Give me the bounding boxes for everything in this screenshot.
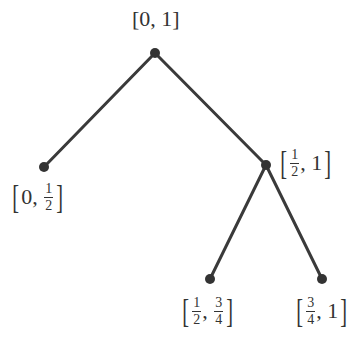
- numerator: 3: [306, 296, 315, 312]
- bracket-close: ]: [341, 294, 348, 328]
- label-right-left: [ 12 , 34 ]: [180, 294, 236, 328]
- bracket-close: ]: [57, 180, 64, 214]
- fraction: 12: [192, 296, 201, 327]
- fraction: 12: [290, 148, 299, 179]
- denominator: 2: [45, 198, 52, 213]
- denominator: 2: [193, 312, 200, 327]
- numerator: 3: [214, 296, 223, 312]
- node-root: [150, 48, 160, 58]
- label-left: [ 0 , 12 ]: [10, 180, 66, 214]
- edge-right-rightleft: [210, 165, 266, 279]
- bracket-open: [: [296, 294, 303, 328]
- denominator: 4: [215, 312, 222, 327]
- fraction: 34: [214, 296, 223, 327]
- label-right: [ 12 , 1 ]: [278, 146, 334, 180]
- edge-right-rightright: [266, 165, 322, 279]
- value-b: 1: [311, 150, 322, 176]
- node-right: [261, 160, 271, 170]
- value-b: 1: [327, 298, 338, 324]
- fraction: 34: [306, 296, 315, 327]
- edge-root-left: [44, 53, 155, 167]
- separator: ,: [316, 298, 322, 324]
- bracket-open: [: [12, 180, 19, 214]
- label-right-right: [ 34 , 1 ]: [294, 294, 350, 328]
- node-left: [39, 162, 49, 172]
- bracket-close: ]: [325, 146, 332, 180]
- node-right-left: [205, 274, 215, 284]
- fraction: 12: [44, 182, 53, 213]
- separator: ,: [202, 298, 208, 324]
- bracket-close: ]: [227, 294, 234, 328]
- label-root: [0, 1]: [132, 6, 180, 32]
- separator: ,: [32, 184, 38, 210]
- node-right-right: [317, 274, 327, 284]
- numerator: 1: [44, 182, 53, 198]
- numerator: 1: [192, 296, 201, 312]
- label-root-text: [0, 1]: [132, 6, 180, 32]
- edge-root-right: [155, 53, 266, 165]
- bracket-open: [: [280, 146, 287, 180]
- separator: ,: [300, 150, 306, 176]
- value-a: 0: [21, 184, 32, 210]
- denominator: 4: [307, 312, 314, 327]
- bracket-open: [: [182, 294, 189, 328]
- denominator: 2: [291, 164, 298, 179]
- numerator: 1: [290, 148, 299, 164]
